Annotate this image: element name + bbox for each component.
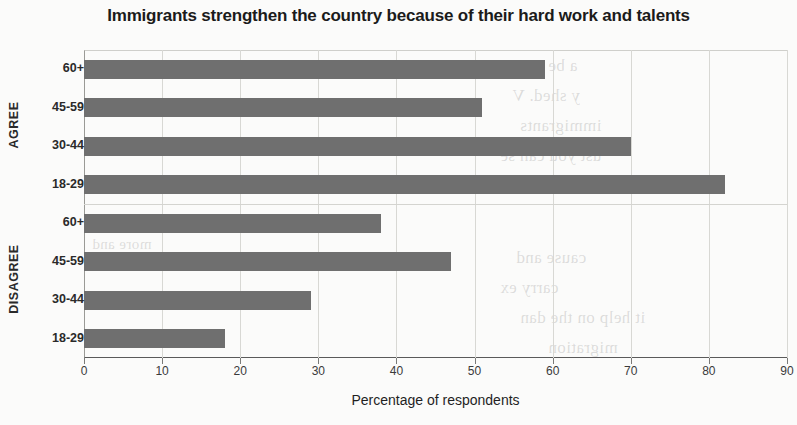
bar: [84, 252, 451, 271]
gridline: [787, 50, 788, 358]
x-axis-tick-label: 60: [546, 364, 559, 378]
y-axis-group-label-agree: AGREE: [7, 65, 21, 185]
x-axis-tick-label: 0: [81, 364, 88, 378]
bar: [84, 60, 545, 79]
bar: [84, 98, 482, 117]
bar: [84, 291, 311, 310]
x-axis-tick-label: 90: [780, 364, 793, 378]
bar: [84, 175, 725, 194]
group-divider: [84, 204, 787, 205]
x-axis-title: Percentage of respondents: [84, 392, 787, 408]
x-axis-tick-label: 40: [390, 364, 403, 378]
x-axis-tick-label: 30: [312, 364, 325, 378]
y-axis-group-label-disagree: DISAGREE: [7, 219, 21, 339]
chart-title: Immigrants strengthen the country becaus…: [0, 6, 797, 26]
bar: [84, 329, 225, 348]
bar: [84, 214, 381, 233]
x-axis-tick-label: 20: [234, 364, 247, 378]
x-axis-tick-label: 70: [624, 364, 637, 378]
x-axis-tick-label: 10: [155, 364, 168, 378]
x-axis-tick-label: 80: [702, 364, 715, 378]
plot-area: 0102030405060708090: [84, 50, 787, 358]
chart-figure: a be y shed. V immigrants ust you can se…: [0, 0, 797, 425]
bar: [84, 137, 631, 156]
x-axis-tick-label: 50: [468, 364, 481, 378]
